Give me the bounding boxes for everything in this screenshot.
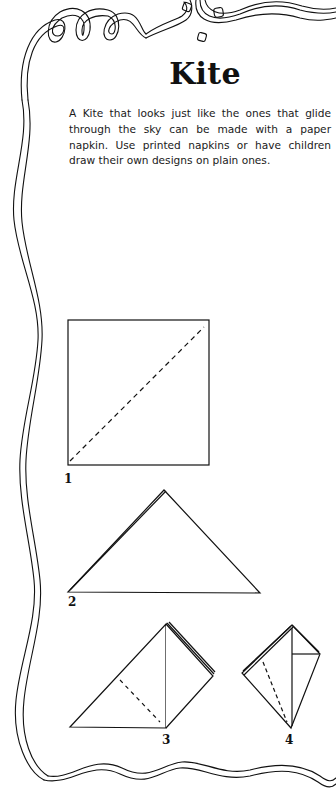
step-1-label: 1	[64, 473, 72, 485]
step-2-label: 2	[68, 596, 76, 608]
step-3-figure	[70, 622, 215, 728]
ribbon-bottom	[44, 762, 336, 787]
step-2-figure	[68, 490, 260, 593]
step-4-label: 4	[285, 734, 293, 746]
step-1-figure	[68, 320, 209, 465]
confetti-squares	[182, 2, 224, 42]
page-title: Kite	[130, 56, 280, 92]
step-3-label: 3	[162, 734, 170, 746]
intro-paragraph: A Kite that looks just like the ones tha…	[69, 106, 331, 169]
step-4-figure	[242, 625, 320, 728]
ribbon-left-side	[13, 100, 48, 780]
